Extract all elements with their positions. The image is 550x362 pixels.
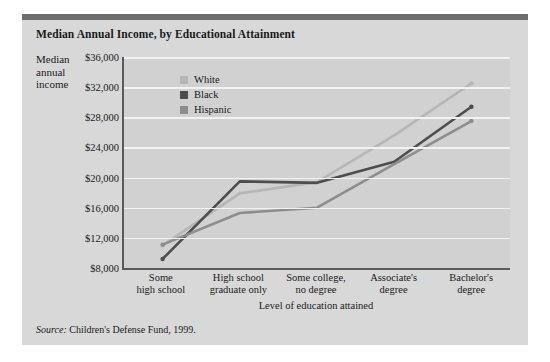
y-axis-tick-label: $16,000	[85, 202, 124, 213]
page-title: Median Annual Income, by Educational Att…	[36, 28, 295, 40]
legend-item-label: Hispanic	[194, 104, 231, 115]
chart-legend: WhiteBlackHispanic	[180, 72, 231, 117]
source-text: Children's Defense Fund, 1999.	[67, 324, 196, 335]
figure-card: Median Annual Income, by Educational Att…	[22, 14, 528, 345]
gridline	[124, 57, 510, 59]
x-axis-ticks: Somehigh schoolHigh schoolgraduate onlyS…	[122, 272, 510, 297]
gridline	[124, 208, 510, 210]
legend-item-label: Black	[194, 89, 219, 100]
legend-item-label: White	[194, 74, 220, 85]
series-endpoint-marker	[469, 119, 473, 123]
gridline	[124, 147, 510, 149]
x-axis-tick-label: High schoolgraduate only	[200, 272, 278, 297]
y-axis-tick-label: $20,000	[85, 172, 124, 183]
y-axis-tick-label: $24,000	[85, 142, 124, 153]
x-axis-title: Level of education attained	[122, 300, 510, 311]
series-endpoint-marker	[469, 81, 473, 85]
x-axis-tick-label: Some college,no degree	[277, 272, 355, 297]
y-axis-tick-label: $32,000	[85, 82, 124, 93]
y-axis-tick-label: $12,000	[85, 232, 124, 243]
gridline	[124, 117, 510, 119]
legend-item: Hispanic	[180, 102, 231, 117]
series-endpoint-marker	[160, 242, 164, 246]
gridline	[124, 238, 510, 240]
y-axis-tick-label: $28,000	[85, 112, 124, 123]
y-axis-tick-label: $36,000	[85, 52, 124, 63]
plot-area: $36,000$32,000$28,000$24,000$20,000$16,0…	[122, 57, 510, 270]
legend-swatch-icon	[180, 106, 188, 114]
series-endpoint-marker	[160, 257, 164, 261]
legend-swatch-icon	[180, 76, 188, 84]
source-note: Source: Children's Defense Fund, 1999.	[36, 324, 196, 335]
x-axis-tick-label: Somehigh school	[122, 272, 200, 297]
series-endpoint-marker	[469, 105, 473, 109]
plot-area-wrapper: $36,000$32,000$28,000$24,000$20,000$16,0…	[122, 57, 508, 268]
legend-item: White	[180, 72, 231, 87]
source-label: Source:	[36, 324, 67, 335]
legend-item: Black	[180, 87, 231, 102]
gridline	[124, 178, 510, 180]
x-axis-tick-label: Associate'sdegree	[355, 272, 433, 297]
series-line	[163, 107, 472, 259]
legend-swatch-icon	[180, 91, 188, 99]
x-axis-tick-label: Bachelor'sdegree	[432, 272, 510, 297]
y-axis-tick-label: $8,000	[90, 263, 124, 274]
top-rule-divider	[22, 14, 528, 20]
